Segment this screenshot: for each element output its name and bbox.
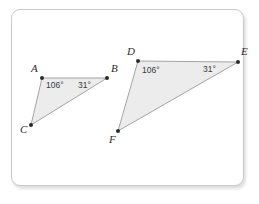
triangle-abc: A B C 106° 31°	[20, 62, 118, 135]
vertex-label-c: C	[20, 123, 28, 135]
vertex-point-d	[136, 59, 140, 63]
vertex-point-f	[116, 129, 120, 133]
angle-label-b: 31°	[78, 80, 91, 90]
vertex-label-a: A	[30, 62, 38, 74]
angle-label-d: 106°	[142, 65, 160, 75]
triangle-def-shape	[118, 61, 238, 131]
vertex-point-b	[105, 76, 109, 80]
triangle-abc-shape	[31, 78, 107, 125]
vertex-label-d: D	[126, 45, 135, 57]
vertex-label-f: F	[108, 133, 116, 145]
vertex-label-b: B	[111, 62, 118, 74]
triangle-def: D E F 106° 31°	[108, 45, 248, 145]
vertex-point-e	[236, 60, 240, 64]
geometry-diagram: A B C 106° 31° D E F 106° 31°	[0, 0, 259, 204]
angle-label-e: 31°	[203, 64, 216, 74]
vertex-point-c	[29, 123, 33, 127]
vertex-point-a	[40, 76, 44, 80]
vertex-label-e: E	[240, 45, 248, 57]
angle-label-a: 106°	[46, 80, 64, 90]
